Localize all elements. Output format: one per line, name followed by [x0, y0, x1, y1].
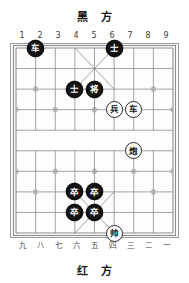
file-label-bottom-2: 八: [34, 240, 46, 251]
file-label-top-7: 7: [124, 30, 136, 41]
black-advisor-1[interactable]: 士: [106, 40, 123, 57]
red-side-label: 红 方: [0, 262, 189, 278]
top-coordinate-row: 123456789: [16, 30, 172, 41]
xiangqi-screenshot: 黑 方 123456789 车士士将兵车炮卒卒卒卒帅 九八七六五四三二一 红 方: [0, 0, 189, 283]
black-side-label: 黑 方: [0, 8, 189, 24]
bottom-coordinate-row: 九八七六五四三二一: [16, 240, 172, 251]
file-label-bottom-3: 七: [52, 240, 64, 251]
file-label-bottom-5: 五: [88, 240, 100, 251]
black-chariot[interactable]: 车: [27, 40, 44, 57]
file-label-bottom-6: 四: [106, 240, 118, 251]
file-label-bottom-9: 一: [160, 240, 172, 251]
red-soldier[interactable]: 兵: [106, 101, 123, 118]
file-label-bottom-7: 三: [124, 240, 136, 251]
file-label-top-4: 4: [70, 30, 82, 41]
file-label-bottom-1: 九: [16, 240, 28, 251]
xiangqi-board[interactable]: 车士士将兵车炮卒卒卒卒帅: [10, 43, 179, 238]
file-label-bottom-8: 二: [142, 240, 154, 251]
file-label-top-8: 8: [142, 30, 154, 41]
file-label-top-9: 9: [160, 30, 172, 41]
black-general[interactable]: 将: [86, 81, 103, 98]
black-advisor-2[interactable]: 士: [66, 81, 83, 98]
file-label-top-3: 3: [52, 30, 64, 41]
file-label-bottom-4: 六: [70, 240, 82, 251]
file-label-top-1: 1: [16, 30, 28, 41]
red-general[interactable]: 帅: [106, 225, 123, 242]
black-soldier-4[interactable]: 卒: [86, 204, 103, 221]
file-label-top-5: 5: [88, 30, 100, 41]
